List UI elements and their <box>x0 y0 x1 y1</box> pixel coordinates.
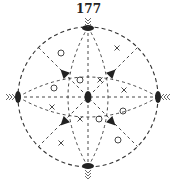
cross-icon <box>115 46 120 51</box>
circle-icon <box>77 77 83 83</box>
pole-left-icon <box>15 91 21 103</box>
circle-icon <box>115 137 121 143</box>
circle-icon <box>58 50 64 56</box>
pole-bottom-icon <box>82 163 94 169</box>
cross-icon <box>50 105 55 110</box>
cross-icon <box>98 78 103 83</box>
pole-top-icon <box>82 25 94 31</box>
cross-icon <box>59 141 64 146</box>
triangle-icon <box>57 116 70 129</box>
cross-icon <box>78 117 83 122</box>
triangle-icon <box>106 116 119 129</box>
circle-icon <box>51 85 57 91</box>
triangle-icon <box>106 66 119 79</box>
pole-center-icon <box>85 91 92 103</box>
pole-right-icon <box>155 91 161 103</box>
triangle-icon <box>57 66 70 79</box>
circle-icon <box>120 108 126 114</box>
cross-icon <box>122 88 127 93</box>
stereographic-projection <box>0 0 177 188</box>
